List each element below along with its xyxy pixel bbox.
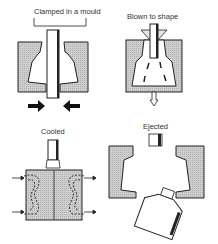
label-clamped: Clamped in a mould — [34, 7, 101, 16]
step-clamped — [18, 18, 88, 112]
step-cooled — [12, 140, 96, 220]
blow-moulding-diagram — [0, 0, 218, 244]
label-cooled: Cooled — [41, 127, 65, 136]
step-ejected — [109, 134, 204, 240]
label-ejected: Ejected — [143, 122, 168, 131]
label-blown: Blown to shape — [127, 12, 178, 21]
step-blown — [126, 24, 182, 106]
